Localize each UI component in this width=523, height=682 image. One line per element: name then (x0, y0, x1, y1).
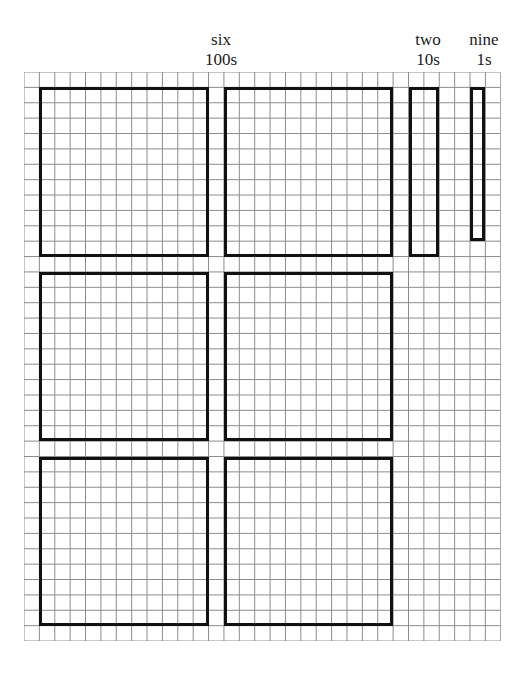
place-value-diagram: six 100s two 10s nine 1s (0, 0, 523, 682)
label-ones-word: nine (458, 30, 510, 50)
label-tens-word: two (403, 30, 453, 50)
label-hundreds: six 100s (186, 30, 256, 70)
hundreds-square-2 (224, 87, 393, 256)
label-ones-place: 1s (458, 50, 510, 70)
hundreds-square-6 (224, 457, 393, 626)
label-ones: nine 1s (458, 30, 510, 70)
label-tens: two 10s (403, 30, 453, 70)
hundreds-square-3 (39, 272, 208, 441)
unit-grid (24, 72, 501, 641)
hundreds-square-4 (224, 272, 393, 441)
label-hundreds-place: 100s (186, 50, 256, 70)
label-tens-place: 10s (403, 50, 453, 70)
ones-bar-1 (470, 87, 485, 241)
label-hundreds-word: six (186, 30, 256, 50)
hundreds-square-1 (39, 87, 208, 256)
hundreds-square-5 (39, 457, 208, 626)
tens-bar-1 (409, 87, 440, 256)
